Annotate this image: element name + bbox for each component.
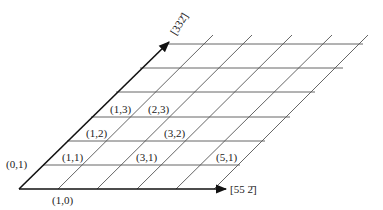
point-label-2-3: (2,3) bbox=[148, 103, 169, 116]
grid-col-1 bbox=[58, 35, 213, 189]
point-label-1-2: (1,2) bbox=[86, 127, 107, 140]
point-label-5-1: (5,1) bbox=[216, 151, 237, 164]
point-labels: (0,1) (1,1) (3,1) (5,1) (1,2) (3,2) (1,3… bbox=[6, 103, 237, 207]
point-label-3-1: (3,1) bbox=[136, 151, 157, 164]
oblique-axis-label: [332̄] bbox=[168, 10, 191, 37]
point-label-1-3: (1,3) bbox=[110, 103, 131, 116]
oblique-axis-arrow bbox=[19, 42, 169, 189]
point-label-1-0: (1,0) bbox=[52, 194, 73, 207]
oblique-grid-lines bbox=[58, 35, 368, 189]
horizontal-grid-lines bbox=[43, 44, 363, 165]
grid-col-5 bbox=[214, 35, 368, 189]
horizontal-axis-label: [55 2̄] bbox=[230, 183, 257, 195]
lattice-diagram: [55 2̄] [332̄] (0,1) (1,1) (3,1) (5,1) (… bbox=[0, 0, 383, 210]
grid-col-4 bbox=[176, 35, 332, 189]
point-label-3-2: (3,2) bbox=[164, 127, 185, 140]
point-label-1-1: (1,1) bbox=[62, 151, 83, 164]
point-label-0-1: (0,1) bbox=[6, 158, 27, 171]
